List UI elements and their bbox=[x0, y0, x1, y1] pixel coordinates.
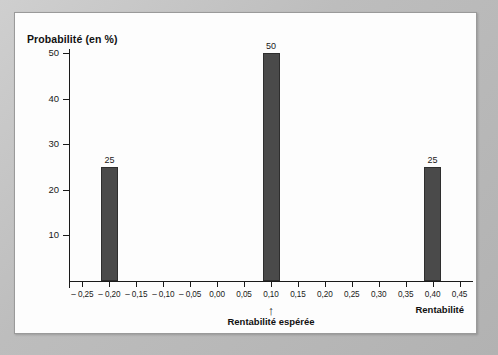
bar: 50 bbox=[263, 53, 280, 281]
x-tick-label: – 0,20 bbox=[98, 290, 120, 299]
bar: 25 bbox=[101, 167, 118, 281]
bar: 25 bbox=[424, 167, 441, 281]
x-tick-label: – 0,05 bbox=[179, 290, 201, 299]
y-tick: 40 bbox=[63, 99, 69, 100]
y-tick: 10 bbox=[63, 235, 69, 236]
x-tick bbox=[163, 281, 164, 287]
x-tick bbox=[109, 281, 110, 287]
x-tick bbox=[82, 281, 83, 287]
x-tick-label: 0,35 bbox=[398, 290, 414, 299]
x-tick-label: – 0,10 bbox=[152, 290, 174, 299]
bar-value-label: 25 bbox=[104, 155, 114, 165]
plot-area: Probabilité (en %) 1020304050 – 0,25– 0,… bbox=[15, 13, 477, 334]
x-tick bbox=[298, 281, 299, 287]
y-tick-label: 50 bbox=[48, 47, 59, 58]
x-tick-label: 0,10 bbox=[263, 290, 279, 299]
x-tick bbox=[190, 281, 191, 287]
y-axis-title: Probabilité (en %) bbox=[27, 33, 117, 45]
x-tick-label: 0,00 bbox=[209, 290, 225, 299]
y-tick-label: 30 bbox=[48, 138, 59, 149]
x-tick-label: 0,20 bbox=[317, 290, 333, 299]
figure-frame: Probabilité (en %) 1020304050 – 0,25– 0,… bbox=[0, 0, 498, 355]
x-tick bbox=[406, 281, 407, 287]
x-tick-label: 0,45 bbox=[452, 290, 468, 299]
bar-value-label: 50 bbox=[266, 41, 276, 51]
x-tick bbox=[244, 281, 245, 287]
expected-return-label: Rentabilité espérée bbox=[227, 316, 314, 327]
chart-panel: Probabilité (en %) 1020304050 – 0,25– 0,… bbox=[14, 12, 477, 334]
x-tick bbox=[433, 281, 434, 287]
x-tick-label: 0,05 bbox=[236, 290, 252, 299]
y-tick-label: 10 bbox=[48, 229, 59, 240]
y-axis-line bbox=[69, 49, 70, 288]
x-tick-label: 0,15 bbox=[290, 290, 306, 299]
y-tick-label: 20 bbox=[48, 184, 59, 195]
x-tick bbox=[136, 281, 137, 287]
x-tick bbox=[271, 281, 272, 287]
x-tick bbox=[460, 281, 461, 287]
bar-value-label: 25 bbox=[428, 155, 438, 165]
x-axis-title: Rentabilité bbox=[415, 304, 464, 315]
x-tick-label: 0,40 bbox=[425, 290, 441, 299]
x-tick bbox=[379, 281, 380, 287]
y-tick-label: 40 bbox=[48, 93, 59, 104]
x-tick bbox=[352, 281, 353, 287]
y-tick: 50 bbox=[63, 53, 69, 54]
y-tick: 30 bbox=[63, 144, 69, 145]
x-tick-label: 0,30 bbox=[371, 290, 387, 299]
x-tick-label: 0,25 bbox=[344, 290, 360, 299]
x-tick bbox=[325, 281, 326, 287]
x-tick-label: – 0,25 bbox=[71, 290, 93, 299]
y-tick: 20 bbox=[63, 190, 69, 191]
x-tick bbox=[217, 281, 218, 287]
x-tick-label: – 0,15 bbox=[125, 290, 147, 299]
